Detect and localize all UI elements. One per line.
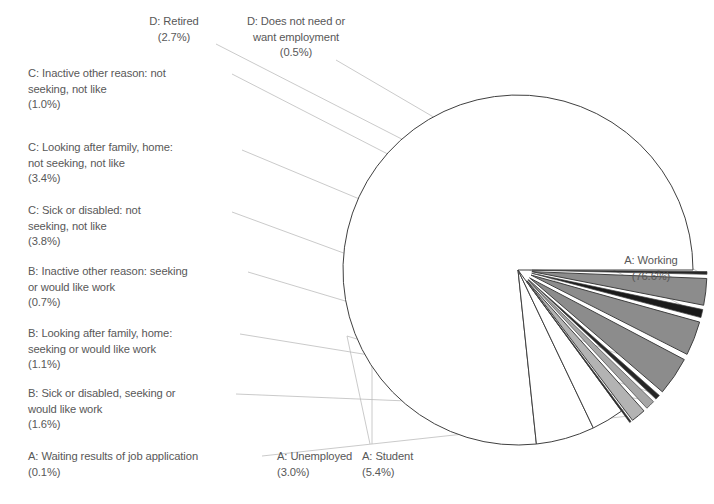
pie-chart-figure: D: Retired (2.7%)D: Does not need or wan… [0,0,714,504]
label-b-sick-or-disabled: B: Sick or disabled, seeking or would li… [28,386,233,433]
label-d-does-not-need-or-want-employment: D: Does not need or want employment (0.5… [222,14,370,61]
label-c-looking-after-family-home: C: Looking after family, home: not seeki… [28,140,238,187]
label-a-working: A: Working (76.6%) [604,253,698,284]
label-b-inactive-other-reason: B: Inactive other reason: seeking or wou… [28,264,243,311]
label-c-sick-or-disabled: C: Sick or disabled: not seeking, not li… [28,203,228,250]
label-a-waiting-results-of-job-application: A: Waiting results of job application (0… [28,449,258,480]
label-c-inactive-other-reason: C: Inactive other reason: not seeking, n… [28,66,228,113]
label-a-student: A: Student (5.4%) [362,449,457,480]
label-b-looking-after-family-home: B: Looking after family, home: seeking o… [28,326,238,373]
